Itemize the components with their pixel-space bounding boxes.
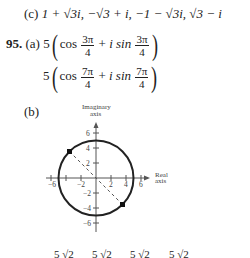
bottom-fraction-fragment: 5 √2 <box>130 248 150 258</box>
point-lower-right <box>120 202 125 207</box>
imaginary-axis-arrow-icon <box>94 122 99 128</box>
bottom-fraction-fragment: 5 √2 <box>92 248 112 258</box>
x-tick-neg2: −2 <box>77 180 85 189</box>
complex-plane-graph: −6 −2 2 4 6 6 4 2 −2 −4 −6 Imaginary axi… <box>0 0 250 258</box>
y-tick-neg6: −6 <box>83 219 91 228</box>
real-axis-label-2: axis <box>155 177 167 185</box>
x-tick-neg6: −6 <box>48 180 56 189</box>
x-tick-4: 4 <box>124 180 128 189</box>
point-upper-left <box>67 149 72 154</box>
y-tick-neg2: −2 <box>83 189 91 198</box>
real-axis-arrow-icon <box>144 176 150 181</box>
bottom-fraction-fragment: 5 √2 <box>54 248 74 258</box>
y-tick-6: 6 <box>86 129 90 138</box>
y-tick-4: 4 <box>86 144 90 153</box>
x-tick-6: 6 <box>139 180 143 189</box>
imaginary-axis-label-2: axis <box>90 110 102 118</box>
x-tick-2: 2 <box>109 180 113 189</box>
y-tick-2: 2 <box>86 159 90 168</box>
y-tick-neg4: −4 <box>83 204 91 213</box>
bottom-fraction-fragment: 5 √2 <box>169 248 189 258</box>
